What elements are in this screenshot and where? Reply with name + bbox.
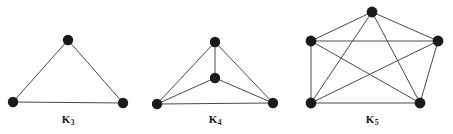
graph-edge (215, 42, 273, 103)
graph-k5 (306, 7, 444, 109)
graph-edge (420, 41, 438, 103)
graph-vertex (8, 97, 18, 107)
graph-edge (157, 42, 215, 104)
graph-label-k3: K3 (62, 114, 75, 125)
graph-label-base: K (62, 113, 71, 125)
vertex-group-k3 (8, 35, 128, 108)
graph-label-subscript: 5 (375, 118, 379, 127)
complete-graphs-figure: K3K4K5 (0, 0, 453, 134)
graph-k4 (152, 37, 278, 109)
graph-vertex (306, 98, 317, 109)
edge-group-k5 (311, 12, 438, 103)
graph-edge (311, 41, 438, 103)
graph-vertex (433, 36, 444, 47)
graph-edge (157, 78, 215, 104)
graph-vertex (210, 37, 220, 47)
graph-label-base: K (366, 113, 375, 125)
graph-vertex (210, 73, 220, 83)
graph-edge (311, 12, 372, 103)
graph-label-k5: K5 (366, 114, 379, 125)
graph-vertex (152, 99, 162, 109)
graph-edge (215, 78, 273, 103)
graph-edge (372, 12, 438, 41)
graph-label-base: K (209, 113, 218, 125)
graph-label-k4: K4 (209, 114, 222, 125)
graph-vertex (63, 35, 73, 45)
graph-vertex (415, 98, 426, 109)
graph-edge (13, 40, 68, 102)
graph-label-subscript: 4 (218, 118, 222, 127)
graph-edge (68, 40, 123, 103)
graph-edge (13, 102, 123, 103)
graph-vertex (118, 98, 128, 108)
graph-label-subscript: 3 (71, 118, 75, 127)
graph-k3 (8, 35, 128, 108)
graph-edge (157, 103, 273, 104)
graph-vertex (268, 98, 278, 108)
graph-vertex (367, 7, 378, 18)
graph-vertex (306, 36, 317, 47)
edge-group-k3 (13, 40, 123, 103)
